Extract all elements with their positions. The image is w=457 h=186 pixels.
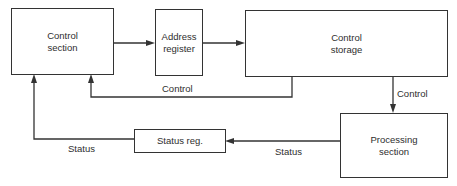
control-storage-box: Control storage: [245, 10, 448, 77]
address-register-label: Address register: [162, 31, 197, 54]
arrowhead-left-icon: [225, 138, 234, 144]
arrowhead-right-icon: [146, 40, 155, 46]
address-register-box: Address register: [155, 9, 203, 76]
control-section-label: Control section: [47, 30, 78, 53]
processing-section-label: Processing section: [371, 134, 418, 157]
arrowhead-up-icon: [88, 74, 94, 83]
control-section-box: Control section: [11, 8, 114, 75]
control-storage-label: Control storage: [331, 32, 363, 55]
status-register-box: Status reg.: [134, 129, 226, 153]
edge-label-status-in: Status: [275, 146, 302, 157]
arrowhead-up-icon: [31, 74, 37, 83]
edge-label-status-out: Status: [68, 143, 95, 154]
edge-status-reg-to-control-section: [34, 79, 134, 139]
edge-label-control-down: Control: [397, 88, 428, 99]
block-diagram: Control section Address register Control…: [0, 0, 457, 186]
arrowhead-right-icon: [236, 40, 245, 46]
edge-label-control-feedback: Control: [162, 83, 193, 94]
processing-section-box: Processing section: [340, 113, 448, 178]
arrowhead-down-icon: [390, 104, 396, 113]
status-register-label: Status reg.: [157, 135, 203, 147]
